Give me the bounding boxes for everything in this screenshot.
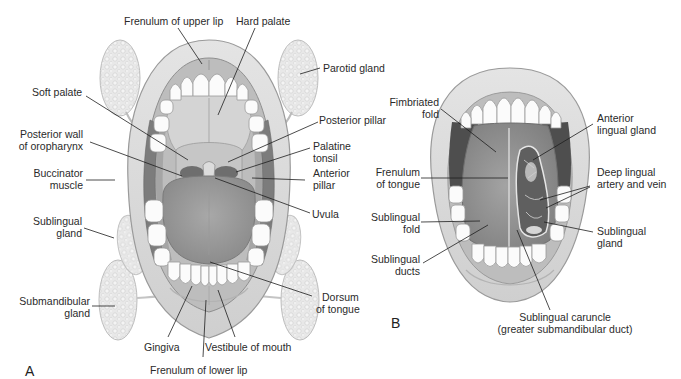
panel-letter-a: A [25, 364, 34, 378]
label-line-1: Fimbriated [385, 96, 439, 108]
label-line-2: of tongue [316, 303, 360, 315]
label-line-1: Dorsum [316, 291, 360, 303]
label-line-2: gland [14, 307, 90, 319]
label-vestibule-of-mouth: Vestibule of mouth [205, 341, 291, 353]
panel-b-illustration [431, 68, 590, 302]
left-parotid-gland [100, 40, 140, 116]
label-anterior-lingual-gland: Anterior lingual gland [597, 112, 656, 136]
label-sublingual-gland-b: Sublingual gland [597, 225, 646, 249]
label-frenulum-upper-lip: Frenulum of upper lip [124, 15, 223, 27]
label-posterior-pillar: Posterior pillar [319, 114, 386, 126]
label-gingiva: Gingiva [144, 341, 180, 353]
label-line-2: gland [20, 227, 82, 239]
label-line-2: of oropharynx [17, 140, 83, 152]
label-line-1: Frenulum [370, 166, 420, 178]
label-line-1: Sublingual [360, 253, 420, 265]
label-line-1: Submandibular [14, 295, 90, 307]
label-line-1: Buccinator [20, 167, 83, 179]
label-line-2: (greater submandibular duct) [485, 323, 645, 335]
label-line-2: pillar [313, 179, 350, 191]
label-palatine-tonsil: Palatine tonsil [313, 140, 351, 164]
label-line-2: ducts [360, 265, 420, 277]
label-line-1: Sublingual caruncle [485, 311, 645, 323]
label-line-1: Sublingual [360, 211, 420, 223]
label-fimbriated-fold: Fimbriated fold [385, 96, 439, 120]
label-anterior-pillar: Anterior pillar [313, 167, 350, 191]
label-line-2: gland [597, 237, 646, 249]
label-parotid-gland: Parotid gland [323, 62, 385, 74]
label-line-1: Posterior wall [17, 128, 83, 140]
label-sublingual-gland-a: Sublingual gland [20, 215, 82, 239]
panel-letter-b: B [391, 316, 400, 330]
label-buccinator-muscle: Buccinator muscle [20, 167, 83, 191]
label-submandibular-gland: Submandibular gland [14, 295, 90, 319]
label-deep-lingual-artery-vein: Deep lingual artery and vein [597, 166, 666, 190]
label-line-2: tonsil [313, 152, 351, 164]
label-line-2: fold [360, 223, 420, 235]
label-uvula: Uvula [312, 208, 339, 220]
label-line-2: artery and vein [597, 178, 666, 190]
label-sublingual-fold: Sublingual fold [360, 211, 420, 235]
label-line-1: Palatine [313, 140, 351, 152]
label-line-2: muscle [20, 179, 83, 191]
label-line-2: of tongue [370, 178, 420, 190]
label-line-2: fold [385, 108, 439, 120]
right-parotid-gland [278, 40, 318, 116]
label-sublingual-caruncle: Sublingual caruncle (greater submandibul… [485, 311, 645, 335]
label-line-1: Anterior [597, 112, 656, 124]
label-line-1: Anterior [313, 167, 350, 179]
label-frenulum-lower-lip: Frenulum of lower lip [150, 364, 247, 376]
label-line-1: Sublingual [20, 215, 82, 227]
label-frenulum-of-tongue: Frenulum of tongue [370, 166, 420, 190]
label-line-1: Deep lingual [597, 166, 666, 178]
label-line-2: lingual gland [597, 124, 656, 136]
oral-cavity-diagram: Frenulum of upper lip Hard palate Paroti… [0, 0, 681, 379]
label-posterior-wall-oropharynx: Posterior wall of oropharynx [17, 128, 83, 152]
label-dorsum-of-tongue: Dorsum of tongue [316, 291, 360, 315]
label-hard-palate: Hard palate [236, 15, 290, 27]
label-soft-palate: Soft palate [32, 86, 82, 98]
panel-a-illustration [99, 40, 319, 340]
label-sublingual-ducts: Sublingual ducts [360, 253, 420, 277]
label-line-1: Sublingual [597, 225, 646, 237]
